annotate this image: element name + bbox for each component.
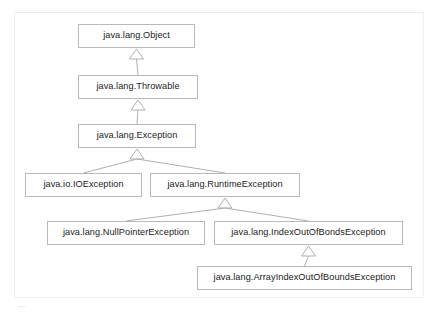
class-box-label: java.lang.RuntimeException: [167, 180, 282, 189]
edge-throwable-to-object: [137, 59, 139, 75]
class-box-label: java.lang.Object: [103, 31, 170, 40]
edge-npe-to-runtime: [126, 208, 225, 221]
generalization-arrowhead-object: [130, 49, 144, 59]
diagram-canvas: java.lang.Objectjava.lang.Throwablejava.…: [0, 0, 438, 313]
generalization-arrowhead-runtime: [218, 198, 232, 208]
class-box-label: java.lang.Exception: [97, 131, 178, 140]
class-box-label: java.lang.Throwable: [96, 82, 179, 91]
generalization-arrowhead-exception: [130, 149, 144, 159]
generalization-arrowhead-throwable: [131, 100, 145, 110]
edge-ioexc-to-exception: [84, 159, 138, 173]
class-box-label: java.io.IOException: [43, 180, 123, 189]
class-box-runtime[interactable]: java.lang.RuntimeException: [150, 173, 300, 197]
class-box-npe[interactable]: java.lang.NullPointerException: [47, 221, 205, 245]
class-box-label: java.lang.IndexOutOfBondsException: [231, 228, 385, 237]
edge-aioobe-to-ioobe: [305, 256, 309, 266]
class-box-throwable[interactable]: java.lang.Throwable: [78, 75, 198, 99]
class-box-ioexc[interactable]: java.io.IOException: [25, 173, 142, 197]
class-box-aioobe[interactable]: java.lang.ArrayIndexOutOfBoundsException: [197, 266, 412, 290]
class-box-exception[interactable]: java.lang.Exception: [78, 124, 196, 148]
class-box-ioobe[interactable]: java.lang.IndexOutOfBondsException: [214, 221, 403, 245]
edge-ioobe-to-runtime: [225, 208, 309, 221]
class-box-label: java.lang.NullPointerException: [63, 228, 189, 237]
edge-runtime-to-exception: [137, 159, 225, 173]
class-box-label: java.lang.ArrayIndexOutOfBoundsException: [214, 273, 396, 282]
generalization-arrowhead-ioobe: [302, 246, 316, 256]
edge-exception-to-throwable: [137, 110, 138, 124]
class-box-object[interactable]: java.lang.Object: [78, 24, 195, 48]
caption-fragment: ...: [18, 300, 26, 309]
